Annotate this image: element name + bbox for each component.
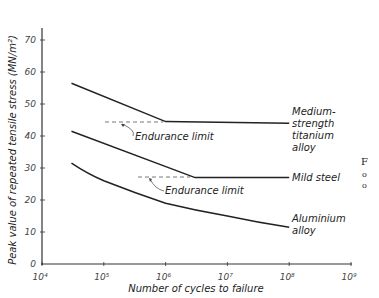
series-lines bbox=[71, 83, 289, 227]
svg-text:Medium-: Medium- bbox=[292, 106, 336, 117]
svg-text:alloy: alloy bbox=[292, 142, 317, 153]
legend-titanium: Medium- strength titanium alloy bbox=[292, 106, 336, 153]
cropped-side-text: F o o bbox=[361, 156, 368, 190]
y-tick-label: 30 bbox=[25, 163, 37, 173]
endurance-limit-label: Endurance limit bbox=[135, 131, 215, 142]
x-tick-label: 10⁹ bbox=[341, 272, 356, 282]
legend-mild-steel: Mild steel bbox=[292, 172, 340, 183]
annotation-arrow-icon bbox=[150, 179, 164, 191]
x-tick-label: 10⁵ bbox=[94, 272, 109, 282]
svg-text:titanium: titanium bbox=[292, 130, 334, 141]
x-axis-label: Number of cycles to failure bbox=[128, 283, 263, 294]
y-tick-label: 70 bbox=[25, 35, 37, 45]
y-axis-label: Peak value of repeated tensile stress (M… bbox=[7, 35, 18, 265]
svg-text:F: F bbox=[361, 156, 368, 167]
legend-aluminium: Aluminium alloy bbox=[291, 213, 346, 236]
x-tick-label: 10⁷ bbox=[218, 272, 233, 282]
svg-text:strength: strength bbox=[292, 118, 334, 129]
series-line bbox=[71, 83, 289, 123]
y-tick-label: 40 bbox=[25, 131, 37, 141]
sn-fatigue-chart: 010203040506070 10⁴10⁵10⁶10⁷10⁸10⁹ Peak … bbox=[0, 0, 379, 298]
svg-text:o: o bbox=[362, 181, 367, 190]
y-tick-label: 50 bbox=[25, 99, 37, 109]
svg-text:Mild steel: Mild steel bbox=[292, 172, 340, 183]
y-tick-label: 20 bbox=[25, 195, 37, 205]
endurance-limit-label: Endurance limit bbox=[165, 185, 245, 196]
y-tick-label: 10 bbox=[25, 227, 37, 237]
svg-text:alloy: alloy bbox=[292, 225, 317, 236]
svg-text:o: o bbox=[362, 170, 367, 179]
annotation-arrow-icon bbox=[121, 124, 125, 127]
x-tick-label: 10⁴ bbox=[32, 272, 47, 282]
y-tick-label: 0 bbox=[30, 259, 36, 269]
x-tick-label: 10⁸ bbox=[280, 272, 295, 282]
x-tick-label: 10⁶ bbox=[156, 272, 171, 282]
x-ticks: 10⁴10⁵10⁶10⁷10⁸10⁹ bbox=[32, 262, 356, 282]
svg-text:Aluminium: Aluminium bbox=[291, 213, 346, 224]
y-tick-label: 60 bbox=[25, 67, 37, 77]
